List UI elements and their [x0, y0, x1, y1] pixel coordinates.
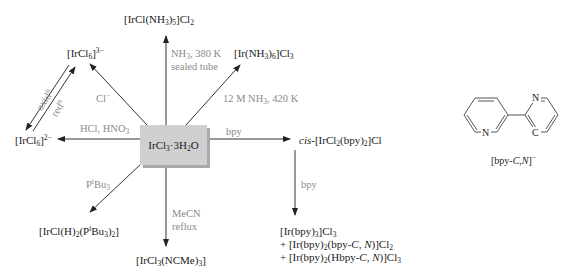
product-hexaammine: [Ir(NH3)6]Cl3: [234, 47, 294, 59]
product-hexachloro-2minus: [IrCl6]2−: [15, 134, 52, 146]
condition-chloride: Cl−: [96, 92, 110, 105]
atom-label-n-bottom: N: [482, 127, 489, 139]
condition-phosphine: PtBu3: [86, 178, 110, 191]
condition-ammine-chloro: NH3, 380 Ksealed tube: [171, 47, 221, 73]
product-hydrido-phosphine: [IrCl(H)2(PtBu3)2]: [39, 225, 119, 237]
condition-bpy-2: bpy: [301, 178, 317, 191]
reaction-scheme: IrCl3·3H2O [IrCl(NH3)5]Cl2 [Ir(NH3)6]Cl3…: [0, 0, 579, 274]
starting-material-box: IrCl3·3H2O: [140, 125, 207, 165]
bpy-products-list: [Ir(bpy)3]Cl3 + [Ir(bpy)2(bpy-C, N)]Cl2 …: [280, 225, 401, 264]
bpy-caption: [bpy-C,N]−: [491, 155, 536, 167]
condition-acetonitrile: MeCNreflux: [172, 207, 201, 233]
product-hexachloro-3minus: [IrCl6]3−: [67, 47, 104, 59]
product-cis-bpy: cis-[IrCl2(bpy)2]Cl: [299, 134, 382, 146]
atom-label-c: C: [532, 127, 539, 139]
bpy-structure: [464, 98, 558, 132]
condition-bpy-1: bpy: [226, 125, 242, 138]
condition-hcl-hno3: HCl, HNO3: [80, 122, 129, 135]
bpy-product-1: [Ir(bpy)3]Cl3: [280, 225, 401, 238]
atom-label-n-top: N: [532, 92, 539, 104]
starting-material-label: IrCl3·3H2O: [148, 139, 198, 151]
product-ammine-chloro: [IrCl(NH3)5]Cl2: [124, 13, 194, 25]
condition-hexaammine: 12 M NH3, 420 K: [223, 92, 298, 105]
bpy-product-2: + [Ir(bpy)2(bpy-C, N)]Cl2: [280, 238, 401, 251]
product-acetonitrile: [IrCl3(NCMe)3]: [136, 254, 206, 266]
bpy-product-3: + [Ir(bpy)2(Hbpy-C, N)]Cl3: [280, 251, 401, 264]
